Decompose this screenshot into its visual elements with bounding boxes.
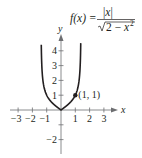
point-label: (1, 1) (78, 89, 100, 101)
point-marker (73, 93, 77, 97)
formula-lhs: f(x) = (70, 12, 97, 25)
y-tick-label: 2 (52, 75, 57, 86)
x-tick-label: −1 (39, 113, 50, 124)
x-tick-label: 1 (73, 113, 78, 124)
y-tick-labels: −21234 (46, 45, 57, 145)
y-tick-label: 4 (52, 45, 57, 56)
x-tick-label: −2 (25, 113, 36, 124)
y-axis-arrow-icon (59, 34, 64, 41)
svg-text:f(x) =: f(x) = (70, 12, 97, 25)
x-tick-label: −3 (11, 113, 22, 124)
x-tick-label: 3 (101, 113, 106, 124)
y-axis-label: y (57, 23, 63, 34)
y-tick-label: −2 (46, 134, 57, 145)
x-axis-label: x (120, 104, 126, 115)
x-tick-labels: −3−2−1123 (11, 113, 107, 124)
y-tick-label: 3 (52, 60, 57, 71)
function-graph: −3−2−1123 −21234 x y (1, 1) f(x) = |x| 2… (0, 0, 142, 158)
function-formula: f(x) = |x| 2 − x 2 (70, 6, 135, 33)
x-axis-arrow-icon (111, 108, 118, 113)
formula-exponent: 2 (130, 19, 134, 28)
y-tick-label: 1 (52, 90, 57, 101)
formula-numerator: |x| (103, 6, 113, 19)
formula-denominator: 2 − x (106, 21, 130, 33)
x-tick-label: 2 (87, 113, 92, 124)
